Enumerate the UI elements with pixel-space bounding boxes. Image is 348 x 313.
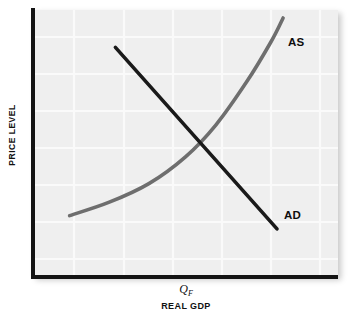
x-axis-title-block: QF REAL GDP <box>0 283 348 312</box>
qf-subscript: F <box>188 289 193 298</box>
ad-curve-label: AD <box>284 209 301 221</box>
qf-symbol: Q <box>179 282 188 296</box>
ad-as-chart-figure: AS AD PRICE LEVEL QF REAL GDP <box>0 0 348 313</box>
y-axis-title: PRICE LEVEL <box>7 95 17 175</box>
plot-area <box>33 10 338 277</box>
curve-layer <box>33 10 338 277</box>
y-axis <box>31 8 35 279</box>
x-axis <box>31 275 338 279</box>
x-axis-title: REAL GDP <box>24 300 348 312</box>
as-curve-label: AS <box>288 36 304 48</box>
qf-tick-label: QF <box>24 283 348 300</box>
